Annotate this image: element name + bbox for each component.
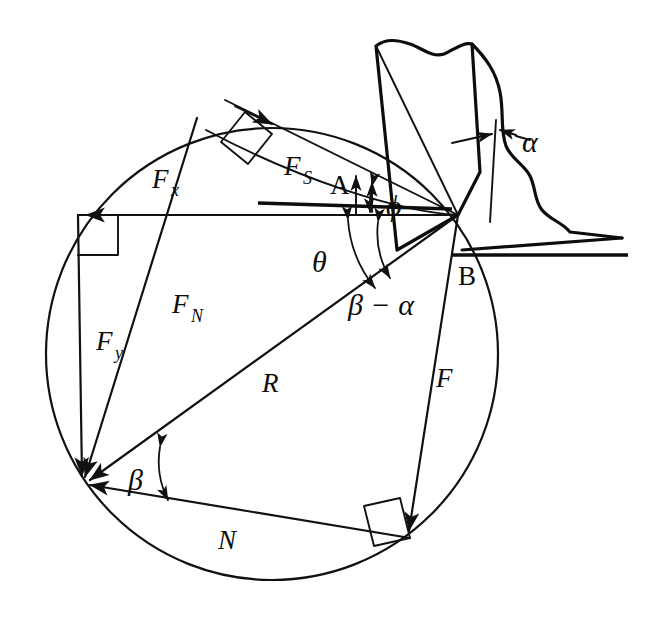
label-fn: F N bbox=[171, 289, 204, 326]
force-circle bbox=[46, 128, 498, 580]
label-fs: F S bbox=[283, 151, 312, 188]
merchant-circle-diagram: F x F y F N F S R F N A B ϕ θ bbox=[0, 0, 654, 618]
label-fx: F x bbox=[151, 164, 179, 200]
label-r: R bbox=[261, 368, 279, 398]
label-angle-phi: ϕ bbox=[386, 189, 402, 222]
force-vector-fs bbox=[235, 106, 272, 124]
label-angle-alpha: α bbox=[522, 125, 539, 158]
workpiece-bottom-edge bbox=[462, 238, 622, 250]
force-vector-r bbox=[90, 215, 458, 480]
label-angle-theta: θ bbox=[312, 245, 327, 278]
label-fs-sub: S bbox=[303, 168, 312, 188]
label-fs-main: F bbox=[283, 151, 301, 181]
angle-arc-beta bbox=[159, 447, 168, 500]
label-n: N bbox=[217, 525, 238, 555]
label-fx-sub: x bbox=[170, 180, 179, 200]
label-f: F bbox=[435, 363, 453, 393]
alpha-left-arrow bbox=[452, 134, 492, 143]
label-fn-sub: N bbox=[190, 306, 204, 326]
label-angle-beta-minus-alpha: β − α bbox=[347, 288, 415, 321]
alpha-reference-vertical bbox=[490, 120, 496, 222]
label-fn-main: F bbox=[171, 289, 189, 319]
label-fx-main: F bbox=[151, 164, 169, 194]
label-angle-beta: β bbox=[127, 463, 143, 496]
label-point-a: A bbox=[330, 170, 350, 200]
label-fy-sub: y bbox=[113, 343, 123, 363]
label-fy: F y bbox=[95, 326, 123, 363]
right-angle-mark-f-n bbox=[364, 498, 410, 546]
merchant-circle-canvas: F x F y F N F S R F N A B ϕ θ bbox=[0, 0, 654, 618]
label-point-b: B bbox=[458, 261, 476, 291]
uncut-surface-segment bbox=[258, 203, 452, 209]
label-fy-main: F bbox=[95, 326, 113, 356]
right-angle-mark-fx-fy bbox=[78, 215, 118, 255]
